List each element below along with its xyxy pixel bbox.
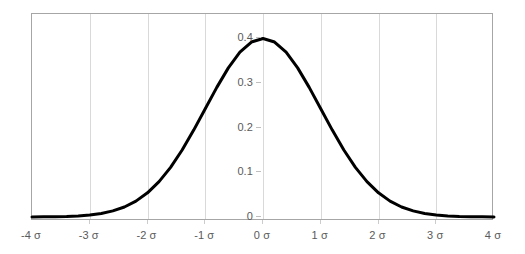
curve-svg xyxy=(32,14,494,221)
y-tick-label: 0.3 xyxy=(219,76,253,88)
x-tick-mark xyxy=(147,220,148,224)
y-tick-mark xyxy=(256,127,261,128)
x-tick-label: 0 σ xyxy=(254,229,270,241)
x-tick-mark xyxy=(378,220,379,224)
x-tick-label: -4 σ xyxy=(21,229,41,241)
x-tick-label: -3 σ xyxy=(79,229,99,241)
x-tick-label: 4 σ xyxy=(485,229,501,241)
x-tick-label: -2 σ xyxy=(136,229,156,241)
x-tick-mark xyxy=(435,220,436,224)
normal-distribution-chart: 0.40.30.20.10 -4 σ-3 σ-2 σ-1 σ0 σ1 σ2 σ3… xyxy=(0,0,525,254)
normal-curve-path xyxy=(32,38,494,216)
y-tick-mark xyxy=(256,82,261,83)
y-tick-mark xyxy=(256,171,261,172)
y-tick-mark xyxy=(256,37,261,38)
x-tick-label: 2 σ xyxy=(369,229,385,241)
x-tick-mark xyxy=(89,220,90,224)
y-tick-label: 0.2 xyxy=(219,121,253,133)
x-tick-label: -1 σ xyxy=(194,229,214,241)
y-tick-mark xyxy=(256,216,261,217)
x-tick-mark xyxy=(320,220,321,224)
x-tick-mark xyxy=(204,220,205,224)
y-tick-label: 0.1 xyxy=(219,165,253,177)
x-tick-mark xyxy=(262,220,263,224)
y-tick-label: 0.4 xyxy=(219,31,253,43)
y-tick-label: 0 xyxy=(219,210,253,222)
x-tick-label: 3 σ xyxy=(427,229,443,241)
plot-area xyxy=(31,13,493,220)
x-tick-label: 1 σ xyxy=(312,229,328,241)
